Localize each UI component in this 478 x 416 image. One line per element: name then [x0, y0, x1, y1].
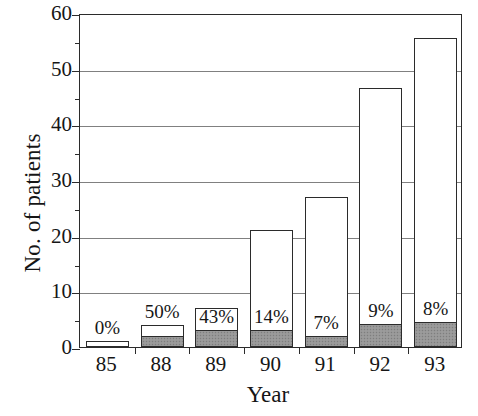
x-axis-title-text: Year	[247, 382, 289, 407]
bar-group: 50%	[141, 13, 184, 347]
x-axis-tick-label: 88	[131, 354, 191, 375]
y-axis-tick-label: 30	[32, 170, 72, 191]
bar-segment-shaded	[305, 336, 348, 347]
y-axis-minor-tick	[75, 154, 80, 155]
y-axis-major-tick	[72, 126, 80, 127]
bar-percentage-label: 8%	[423, 299, 448, 318]
bar-group: 0%	[86, 13, 129, 347]
y-axis-tick-labels: 0102030405060	[28, 14, 72, 348]
bar-segment-shaded	[414, 322, 457, 347]
x-axis-tick	[299, 347, 300, 354]
y-axis-tick-label: 10	[32, 281, 72, 302]
bar-group: 7%	[305, 13, 348, 347]
bar-segment-shaded	[141, 336, 184, 347]
y-axis-minor-tick	[75, 210, 80, 211]
y-axis-tick-label: 60	[32, 3, 72, 24]
x-axis-tick-label: 89	[186, 354, 246, 375]
y-axis-major-tick	[72, 182, 80, 183]
y-axis-minor-tick	[75, 266, 80, 267]
x-axis-tick	[189, 347, 190, 354]
x-axis-tick	[135, 347, 136, 354]
x-axis-tick	[244, 347, 245, 354]
bar-segment-shaded	[250, 330, 293, 347]
bar-percentage-label: 14%	[254, 307, 289, 326]
x-axis-tick-label: 92	[350, 354, 410, 375]
y-axis-tick-label: 0	[32, 337, 72, 358]
y-axis-major-tick	[72, 349, 80, 350]
y-axis-major-tick	[72, 238, 80, 239]
y-axis-minor-tick	[75, 321, 80, 322]
x-axis-title: Year	[0, 382, 478, 408]
x-axis-tick-label: 90	[241, 354, 301, 375]
x-axis-tick-label: 91	[295, 354, 355, 375]
y-axis-major-tick	[72, 293, 80, 294]
bar-percentage-label: 9%	[368, 301, 393, 320]
bar-group: 43%	[195, 13, 238, 347]
bar-segment-shaded	[195, 330, 238, 347]
y-axis-major-tick	[72, 71, 80, 72]
bar-percentage-label: 50%	[145, 302, 180, 321]
y-axis-minor-tick	[75, 43, 80, 44]
x-axis-tick	[354, 347, 355, 354]
bar-percentage-label: 0%	[95, 318, 120, 337]
bar-percentage-label: 43%	[199, 307, 234, 326]
y-axis-minor-tick	[75, 99, 80, 100]
y-axis-major-tick	[72, 15, 80, 16]
bar-segment-shaded	[359, 324, 402, 347]
x-axis-tick-label: 85	[76, 354, 136, 375]
y-axis-tick-label: 40	[32, 114, 72, 135]
y-axis-tick-label: 50	[32, 59, 72, 80]
x-axis-tick-label: 93	[405, 354, 465, 375]
bar-percentage-label: 7%	[314, 313, 339, 332]
bar-group: 14%	[250, 13, 293, 347]
y-axis-tick-label: 20	[32, 226, 72, 247]
x-axis-tick	[408, 347, 409, 354]
bar-group: 8%	[414, 13, 457, 347]
bar-chart: No. of patients 0102030405060 0%50%43%14…	[0, 0, 478, 416]
bar-segment-total	[86, 341, 129, 347]
bar-group: 9%	[359, 13, 402, 347]
